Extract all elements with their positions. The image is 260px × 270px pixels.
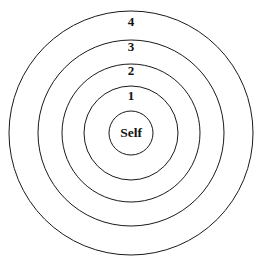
- ring-label-3: 3: [128, 39, 135, 54]
- ring-label-4: 4: [128, 14, 135, 29]
- diagram-canvas: 4 3 2 1 Self: [0, 0, 260, 270]
- ring-label-self: Self: [120, 125, 142, 140]
- ring-label-2: 2: [128, 63, 135, 78]
- ring-label-1: 1: [128, 88, 135, 103]
- concentric-circles-diagram: 4 3 2 1 Self: [0, 0, 260, 270]
